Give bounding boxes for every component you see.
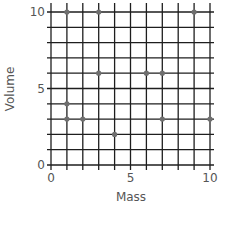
data-point (64, 117, 69, 122)
data-point (96, 71, 101, 76)
x-tick-label: 0 (47, 171, 55, 185)
y-tick-labels: 0 5 10 (30, 5, 45, 172)
y-axis-title: Volume (3, 67, 17, 112)
x-tick-label: 5 (127, 171, 135, 185)
data-point (160, 71, 165, 76)
x-axis-title: Mass (116, 190, 146, 204)
data-point (80, 117, 85, 122)
data-point (192, 9, 197, 14)
data-point (144, 71, 149, 76)
x-tick-labels: 0 5 10 (47, 171, 217, 185)
data-point (112, 132, 117, 137)
data-point (96, 9, 101, 14)
x-tick-label: 10 (202, 171, 217, 185)
y-tick-label: 5 (37, 82, 45, 96)
data-point (160, 117, 165, 122)
data-point (64, 101, 69, 106)
grid (47, 3, 214, 170)
y-tick-label: 0 (37, 158, 45, 172)
y-tick-label: 10 (30, 5, 45, 19)
data-point (64, 9, 69, 14)
scatter-chart: 0 5 10 0 5 10 Mass Volume (0, 0, 226, 226)
data-point (207, 117, 212, 122)
